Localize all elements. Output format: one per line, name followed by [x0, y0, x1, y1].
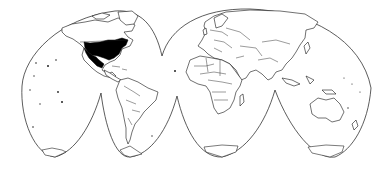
antarctica-east-1	[204, 145, 238, 157]
world-map	[0, 0, 389, 169]
